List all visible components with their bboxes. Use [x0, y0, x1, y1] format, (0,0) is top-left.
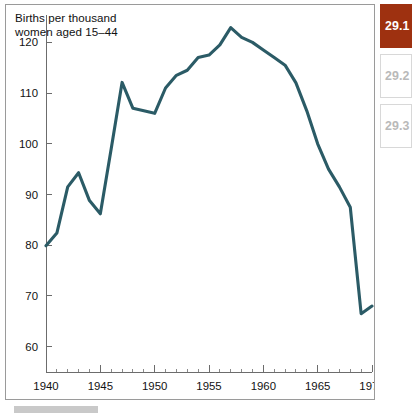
caption-placeholder-bar [14, 406, 98, 413]
x-tick-label: 1940 [33, 380, 58, 392]
x-tick-label: 1960 [251, 380, 276, 392]
x-tick-label: 1950 [142, 380, 167, 392]
figure-panel: 6070809010011012019401945195019551960196… [5, 4, 375, 400]
tab-29-2[interactable]: 29.2 [380, 54, 412, 98]
y-tick-label: 90 [25, 189, 38, 201]
birth-rate-line [46, 28, 372, 314]
series-group [46, 28, 372, 314]
x-tick-label: 1965 [305, 380, 330, 392]
tab-29-2-label: 29.2 [385, 69, 410, 83]
y-tick-label: 80 [25, 239, 38, 251]
chart-title: Births per thousand women aged 15–44 [15, 11, 265, 38]
y-tick-label: 110 [20, 87, 38, 99]
plot-area: 6070809010011012019401945195019551960196… [6, 5, 374, 399]
tab-29-3[interactable]: 29.3 [380, 104, 412, 148]
figure-tab-rail: 29.1 29.2 29.3 [380, 4, 409, 164]
axis-labels-group: 6070809010011012019401945195019551960196… [19, 36, 374, 392]
axes-group [46, 15, 372, 372]
x-tick-label: 1970 [359, 380, 374, 392]
tab-29-1[interactable]: 29.1 [380, 4, 412, 48]
y-tick-label: 60 [25, 341, 38, 353]
x-tick-label: 1955 [196, 380, 221, 392]
y-tick-label: 70 [25, 290, 38, 302]
line-chart-svg: 6070809010011012019401945195019551960196… [6, 5, 374, 399]
x-tick-label: 1945 [88, 380, 113, 392]
tab-29-1-label: 29.1 [385, 19, 410, 33]
tab-29-3-label: 29.3 [385, 119, 410, 133]
y-tick-label: 100 [19, 138, 38, 150]
